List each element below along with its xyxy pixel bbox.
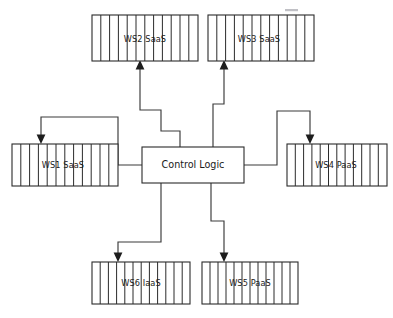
node-ws5[interactable]: WS5 PaaS: [202, 262, 298, 304]
arrowhead-ws5: [220, 253, 229, 262]
scan-artifact: [285, 9, 298, 11]
node-ws3[interactable]: WS3 SaaS: [208, 15, 314, 61]
node-control-logic[interactable]: Control Logic: [142, 147, 244, 183]
diagram-canvas: WS2 SaaS WS3 SaaS: [0, 0, 393, 318]
node-ws4-label: WS4 PaaS: [315, 160, 357, 170]
block-diagram: WS2 SaaS WS3 SaaS: [0, 0, 393, 318]
node-ws5-label: WS5 PaaS: [229, 278, 271, 288]
arrowhead-ws4: [306, 135, 315, 144]
arrowhead-ws1: [37, 135, 46, 144]
connector-control-logic-to-ws3: [213, 60, 228, 147]
connector-control-logic-to-ws6: [114, 183, 161, 262]
node-ws2-label: WS2 SaaS: [124, 34, 166, 44]
arrowhead-ws6: [114, 253, 123, 262]
node-ws1-label: WS1 SaaS: [42, 160, 84, 170]
node-ws1[interactable]: WS1 SaaS: [12, 144, 118, 186]
node-ws6-label: WS6 IaaS: [121, 278, 161, 288]
node-ws2[interactable]: WS2 SaaS: [92, 15, 198, 61]
connector-control-logic-to-ws2: [136, 60, 180, 147]
node-ws6[interactable]: WS6 IaaS: [92, 262, 190, 304]
connector-control-logic-to-ws5: [211, 183, 228, 262]
node-ws3-label: WS3 SaaS: [238, 34, 280, 44]
node-ws4[interactable]: WS4 PaaS: [287, 144, 387, 186]
node-control-logic-label: Control Logic: [162, 159, 225, 170]
